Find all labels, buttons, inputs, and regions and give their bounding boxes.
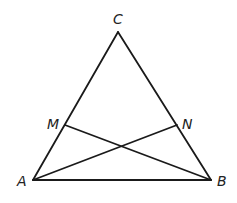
segment-MB xyxy=(65,125,211,180)
label-M: M xyxy=(47,116,59,132)
label-B: B xyxy=(217,173,227,189)
segment-AC xyxy=(33,32,118,180)
segment-AN xyxy=(33,125,177,180)
segments-group xyxy=(33,32,211,180)
diagram-canvas: C M N A B xyxy=(0,0,237,203)
label-C: C xyxy=(113,11,123,27)
segment-BC xyxy=(118,32,211,180)
label-A: A xyxy=(16,173,27,189)
triangle-diagram: C M N A B xyxy=(0,0,237,203)
label-N: N xyxy=(182,116,193,132)
